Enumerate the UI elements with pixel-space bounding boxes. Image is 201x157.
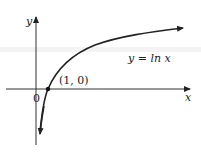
point-label: (1, 0) <box>59 74 89 87</box>
ln-graph: y x 0 (1, 0) y = ln x <box>0 0 201 157</box>
curve-label: y = ln x <box>127 52 172 65</box>
point-1-0 <box>46 87 50 91</box>
x-axis-label: x <box>185 91 192 104</box>
origin-label: 0 <box>33 92 40 105</box>
y-axis-label: y <box>25 15 33 28</box>
